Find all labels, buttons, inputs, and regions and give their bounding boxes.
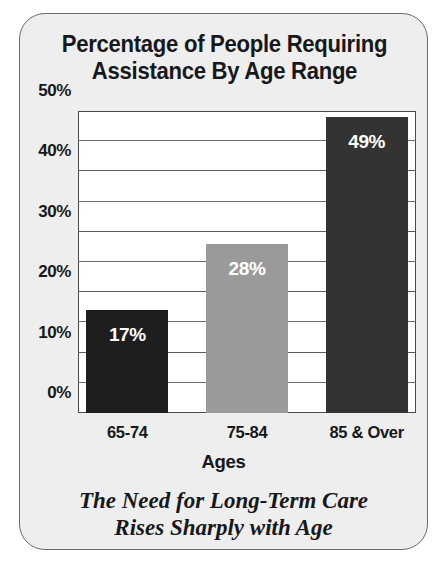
- bar-value-label: 49%: [326, 131, 408, 153]
- chart-card: Percentage of People Requiring Assistanc…: [19, 13, 428, 550]
- y-axis-tick-label: 20%: [38, 262, 71, 282]
- bar-value-label: 17%: [86, 324, 168, 346]
- y-axis-tick-label: 40%: [38, 141, 71, 161]
- chart-title: Percentage of People Requiring Assistanc…: [44, 31, 406, 85]
- bar-value-label: 28%: [206, 258, 288, 280]
- x-axis-tick-label: 85 & Over: [329, 423, 403, 442]
- y-axis-tick-label: 30%: [38, 201, 71, 221]
- chart-caption-line-1: The Need for Long-Term Care: [30, 487, 417, 514]
- plot-area: 0%10%20%30%40%50% 17%28%49% 65-7475-8485…: [78, 111, 416, 413]
- bar-75-84[interactable]: 28%: [206, 244, 288, 413]
- y-axis-tick-label: 10%: [38, 322, 71, 342]
- x-axis-tick-label: 75-84: [227, 423, 268, 442]
- x-axis-tick-label: 65-74: [107, 423, 148, 442]
- chart-caption-line-2: Rises Sharply with Age: [30, 514, 417, 541]
- bar-85-over[interactable]: 49%: [326, 117, 408, 413]
- x-axis-title: Ages: [20, 451, 427, 473]
- chart-title-line-1: Percentage of People Requiring: [44, 31, 406, 58]
- y-axis-tick-label: 50%: [38, 81, 71, 101]
- chart-title-line-2: Assistance By Age Range: [44, 58, 406, 85]
- bar-65-74[interactable]: 17%: [86, 310, 168, 413]
- chart-caption: The Need for Long-Term Care Rises Sharpl…: [30, 487, 417, 541]
- y-axis-tick-label: 0%: [47, 383, 71, 403]
